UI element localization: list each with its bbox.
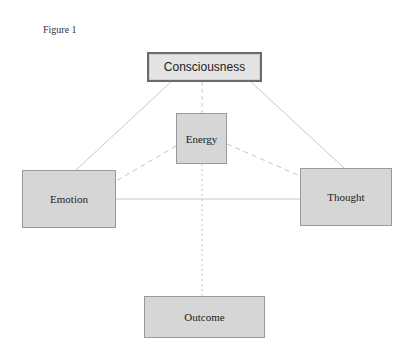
link-energy-thought	[227, 144, 300, 176]
node-outcome-label: Outcome	[184, 311, 224, 323]
link-energy-emotion	[116, 146, 176, 181]
node-emotion-label: Emotion	[50, 193, 88, 205]
node-energy-label: Energy	[186, 133, 218, 145]
node-thought-label: Thought	[327, 191, 364, 203]
node-outcome: Outcome	[144, 296, 265, 338]
link-consciousness-thought	[250, 81, 344, 168]
node-thought: Thought	[300, 168, 392, 226]
node-consciousness-label: Consciousness	[164, 60, 245, 74]
node-emotion: Emotion	[22, 170, 116, 228]
node-energy: Energy	[176, 113, 227, 164]
node-consciousness: Consciousness	[147, 52, 262, 82]
